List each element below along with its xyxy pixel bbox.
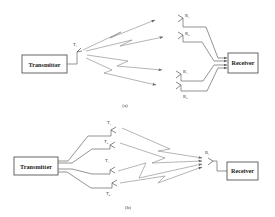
- antenna-icon: [110, 167, 115, 173]
- transmitter-box-a: Transmitter: [22, 55, 67, 73]
- antenna-label-t4-b: T4: [106, 191, 111, 197]
- diagram-a: Transmitter T1 R1 R2 R3 R4: [22, 13, 258, 108]
- antenna-icon: [176, 82, 181, 89]
- receiver-box-a: Receiver: [228, 53, 258, 73]
- transmitter-label-b: Transmitter: [20, 163, 52, 170]
- receiver-feeds-a: [181, 18, 227, 91]
- antenna-icon: [112, 180, 117, 186]
- antenna-label-t2-b: T2: [104, 139, 109, 145]
- transmitter-feed-a: [67, 52, 77, 64]
- diagram-b: Transmitter T1 T2 T3 T4: [14, 120, 258, 210]
- antenna-label-r4: R4: [183, 94, 188, 100]
- antenna-icon: [77, 48, 82, 52]
- antenna-label-t3-b: T3: [105, 158, 110, 164]
- signal-paths-b: [118, 128, 202, 183]
- receiver-box-b: Receiver: [227, 162, 258, 180]
- antenna-label-r3: R3: [183, 69, 188, 75]
- antenna-icon: [110, 142, 115, 148]
- antenna-icon: [176, 71, 181, 78]
- caption-a: (a): [122, 103, 128, 108]
- antenna-label-t1-b: T1: [107, 120, 112, 126]
- receiver-feed-b: [213, 161, 227, 171]
- antenna-icon: [111, 127, 116, 133]
- antenna-label-r1-b: R1: [205, 150, 210, 156]
- receiver-label-a: Receiver: [231, 59, 254, 66]
- diagram-canvas: Transmitter T1 R1 R2 R3 R4: [0, 0, 275, 217]
- antenna-icon: [178, 32, 183, 39]
- caption-b: (b): [125, 205, 131, 210]
- transmit-antennas-b: T1 T2 T3 T4: [104, 120, 117, 197]
- antenna-icon: [178, 15, 183, 22]
- receiver-label-b: Receiver: [231, 167, 254, 174]
- transmitter-label-a: Transmitter: [29, 61, 61, 68]
- signal-paths-a: [83, 20, 163, 85]
- antenna-label-r1: R1: [185, 13, 190, 19]
- antenna-label-t1-a: T1: [73, 42, 78, 48]
- transmitter-box-b: Transmitter: [14, 157, 58, 175]
- antenna-icon: [208, 158, 213, 165]
- antenna-label-r2: R2: [185, 31, 190, 37]
